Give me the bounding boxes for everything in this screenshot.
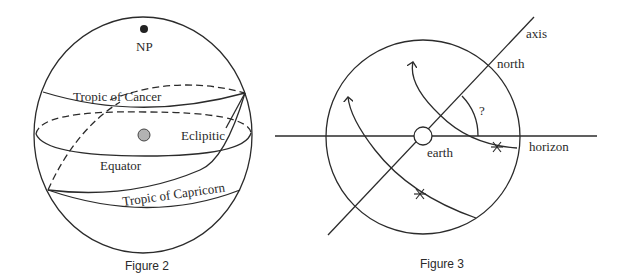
angle-question-label: ? bbox=[479, 103, 485, 118]
earth-center-dot-icon bbox=[138, 129, 150, 141]
ecliptic-back bbox=[48, 102, 120, 190]
north-label: north bbox=[497, 56, 525, 71]
angle-arc bbox=[462, 96, 478, 136]
tropic-of-capricorn-label: Tropic of Capricorn bbox=[121, 180, 226, 209]
north-pole-dot-icon bbox=[140, 25, 148, 33]
earth-circle-icon bbox=[414, 127, 432, 145]
figure-3: horizon axis north ? earth Figure 3 bbox=[275, 17, 597, 271]
axis-label: axis bbox=[526, 26, 547, 41]
star-path-lower-arrow bbox=[348, 97, 476, 218]
diagram-canvas: NP Tropic of Cancer Equator Eclipitic Tr… bbox=[0, 0, 626, 280]
north-pole-label: NP bbox=[136, 39, 153, 54]
tropic-of-cancer-label: Tropic of Cancer bbox=[73, 89, 162, 104]
earth-label: earth bbox=[427, 145, 453, 160]
ecliptic-label: Eclipitic bbox=[181, 128, 225, 143]
figure-3-caption: Figure 3 bbox=[420, 257, 464, 271]
figure-2-caption: Figure 2 bbox=[125, 259, 169, 273]
star-marker-upper-icon bbox=[491, 142, 503, 152]
equator-label: Equator bbox=[100, 158, 142, 173]
horizon-label: horizon bbox=[529, 139, 569, 154]
figure-2: NP Tropic of Cancer Equator Eclipitic Tr… bbox=[34, 17, 252, 273]
